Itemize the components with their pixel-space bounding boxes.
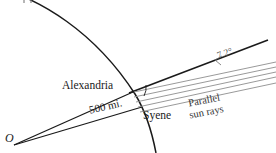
label-alexandria: Alexandria (62, 80, 113, 92)
earth-surface-arc (0, 0, 156, 153)
eratosthenes-diagram (0, 0, 276, 153)
label-earth-center-o: O (5, 132, 14, 144)
label-syene: Syene (143, 110, 171, 122)
cropped-text-artifact (24, 0, 31, 3)
figure-canvas: Alexandria Syene 500 mi. O 7.2° Parallel… (0, 0, 276, 153)
radius-line-to-syene (14, 107, 142, 145)
gnomon-extension-line (129, 40, 268, 93)
